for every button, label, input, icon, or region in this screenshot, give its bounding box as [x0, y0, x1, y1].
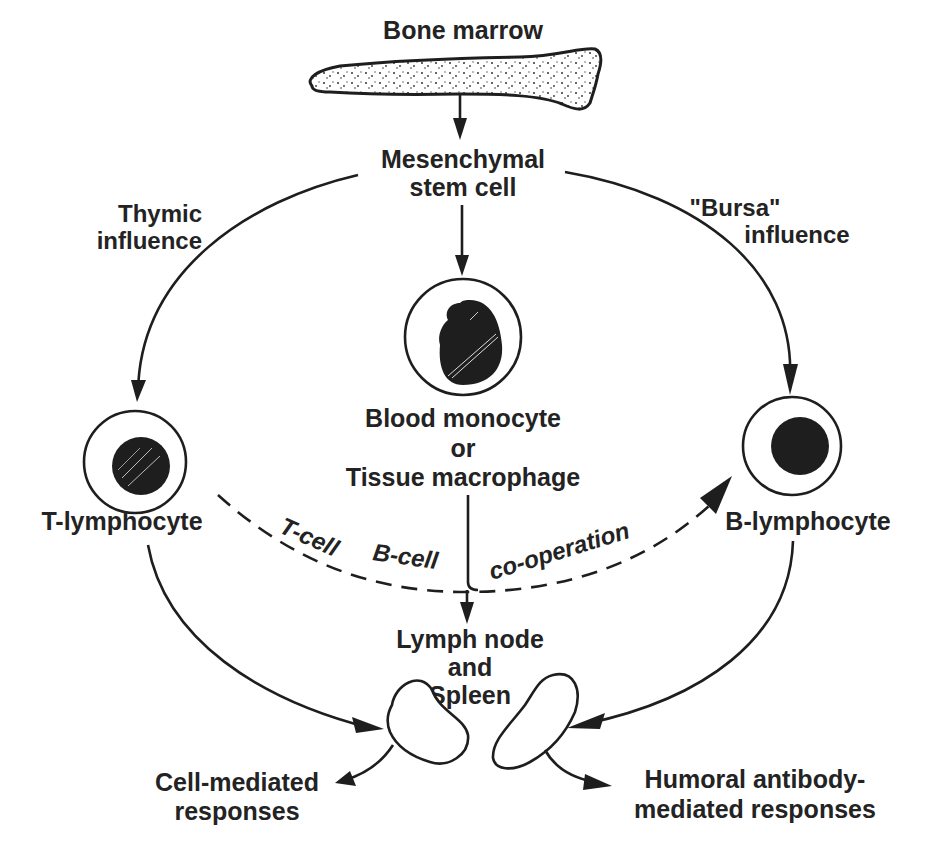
arrow-hook: [468, 582, 478, 590]
cooperation-label-cooperation: co-operation: [486, 516, 633, 584]
arrowhead: [335, 771, 356, 786]
cooperation-label-bcell: B-cell: [371, 538, 441, 574]
b-lymphocyte-label: B-lymphocyte: [725, 507, 890, 535]
b-lymphocyte-cell-icon: [743, 397, 841, 495]
arrowhead: [455, 255, 469, 276]
lymphocyte-diagram: Bone marrow Mesenchymal stem cell Thymic…: [0, 0, 926, 855]
arrowhead: [783, 364, 798, 395]
bone-marrow-label: Bone marrow: [383, 16, 543, 44]
lymph-node-label-line1: Lymph node: [396, 625, 544, 653]
thymic-label-line1: Thymic: [118, 200, 202, 227]
monocyte-cell-icon: [405, 279, 521, 395]
arrow-to-cell-mediated: [345, 745, 393, 780]
humoral-label-line2: mediated responses: [634, 795, 876, 823]
stem-cell-label-line2: stem cell: [409, 173, 516, 201]
arrowhead: [453, 118, 467, 140]
arrow-t-lymphocyte-to-lymph-node: [148, 545, 370, 728]
bursa-label-line2: influence: [744, 221, 849, 248]
thymic-label-line2: influence: [97, 227, 202, 254]
stem-cell-label-line1: Mesenchymal: [381, 145, 545, 173]
monocyte-label-line1: Blood monocyte: [365, 404, 561, 432]
t-lymphocyte-cell-icon: [84, 411, 186, 513]
arrow-b-lymphocyte-to-spleen: [585, 541, 793, 724]
lymph-node-label-line2: and: [448, 653, 492, 681]
bursa-label-line1: "Bursa": [690, 194, 781, 221]
monocyte-label-line2: or: [451, 434, 476, 462]
cooperation-label-tcell: T-cell: [276, 512, 344, 562]
cell-mediated-label-line1: Cell-mediated: [155, 768, 319, 796]
arrowhead: [131, 380, 146, 402]
arrowhead: [583, 774, 612, 790]
humoral-label-line1: Humoral antibody-: [645, 765, 866, 793]
arrowhead: [352, 717, 384, 733]
arrowhead: [460, 602, 474, 624]
t-lymphocyte-label: T-lymphocyte: [41, 507, 202, 535]
monocyte-label-line3: Tissue macrophage: [346, 463, 580, 491]
cell-mediated-label-line2: responses: [174, 797, 299, 825]
bone-icon: [310, 49, 601, 109]
